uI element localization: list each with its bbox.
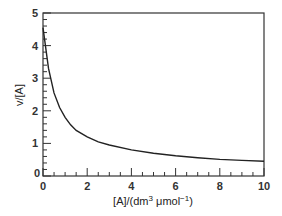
y-tick-label: 2 xyxy=(32,105,38,117)
x-tick-label: 2 xyxy=(84,180,90,192)
data-curve xyxy=(43,28,264,162)
y-axis-tick-labels: 012345 xyxy=(32,7,40,179)
y-tick-label: 1 xyxy=(32,137,38,149)
x-axis-ticks xyxy=(43,168,264,176)
x-tick-label: 8 xyxy=(217,180,223,192)
x-tick-label: 0 xyxy=(40,180,46,192)
x-tick-label: 10 xyxy=(258,180,270,192)
chart: 0246810 012345 [A]/(dm3 μmol−1) v/[A] xyxy=(0,0,282,216)
x-tick-label: 6 xyxy=(173,180,179,192)
y-axis-label: v/[A] xyxy=(13,84,25,106)
x-tick-label: 4 xyxy=(128,180,135,192)
x-axis-tick-labels: 0246810 xyxy=(40,180,270,192)
y-tick-label: 4 xyxy=(32,40,39,52)
x-axis-label: [A]/(dm3 μmol−1) xyxy=(113,194,193,207)
y-tick-label: 3 xyxy=(32,72,38,84)
y-tick-label: 0 xyxy=(34,167,40,179)
y-tick-label: 5 xyxy=(32,7,38,19)
plot-frame xyxy=(43,13,264,176)
